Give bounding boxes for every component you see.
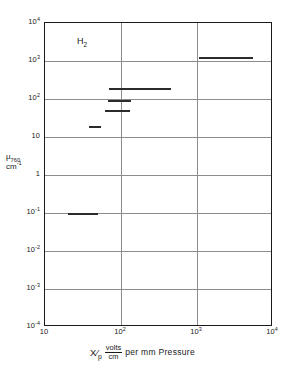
y-axis-tick-label: 103 bbox=[28, 56, 40, 64]
data-segment bbox=[199, 57, 254, 59]
x-axis-tick-label: 104 bbox=[266, 328, 278, 336]
x-axis-tick-label: 10 bbox=[40, 328, 49, 336]
tick-mantissa: 10 bbox=[26, 245, 35, 254]
y-axis-tick-label: 10-3 bbox=[26, 284, 40, 292]
gridline-horizontal bbox=[45, 99, 271, 100]
tick-exponent: -4 bbox=[35, 320, 40, 326]
y-axis-tick-label: 102 bbox=[28, 94, 40, 102]
tick-mantissa: 10 bbox=[190, 327, 199, 336]
y-axis-title-unit-exponent: -1 bbox=[17, 160, 22, 166]
tick-mantissa: 10 bbox=[266, 327, 275, 336]
tick-mantissa: 10 bbox=[28, 93, 37, 102]
tick-mantissa: 10 bbox=[26, 207, 35, 216]
tick-exponent: 4 bbox=[37, 16, 40, 22]
x-axis-title-ratio: X⁄p bbox=[90, 348, 102, 358]
tick-exponent: -3 bbox=[35, 282, 40, 288]
gridline-vertical bbox=[121, 23, 122, 325]
gridline-horizontal bbox=[45, 289, 271, 290]
x-axis-unit-denominator: cm bbox=[105, 353, 122, 361]
gridline-horizontal bbox=[45, 61, 271, 62]
plot-area: H2 bbox=[44, 22, 272, 326]
tick-mantissa: 10 bbox=[26, 283, 35, 292]
y-axis-tick-labels: 10410310210110-110-210-310-4 bbox=[0, 22, 40, 326]
tick-mantissa: 10 bbox=[26, 321, 35, 330]
tick-mantissa: 10 bbox=[40, 327, 49, 336]
tick-mantissa: 10 bbox=[114, 327, 123, 336]
y-axis-tick-label: 104 bbox=[28, 18, 40, 26]
y-axis-tick-label: 10-1 bbox=[26, 208, 40, 216]
gridline-horizontal bbox=[45, 137, 271, 138]
x-axis-tick-labels: 10102103104 bbox=[44, 328, 272, 342]
tick-mantissa: 10 bbox=[28, 17, 37, 26]
tick-exponent: -1 bbox=[35, 206, 40, 212]
y-axis-title: μ760 cm-1 bbox=[6, 152, 40, 172]
tick-exponent: 2 bbox=[123, 326, 126, 332]
y-axis-tick-label: 10-2 bbox=[26, 246, 40, 254]
x-axis-tick-label: 102 bbox=[114, 328, 126, 336]
tick-exponent: 4 bbox=[275, 326, 278, 332]
x-axis-tick-label: 103 bbox=[190, 328, 202, 336]
tick-mantissa: 10 bbox=[28, 55, 37, 64]
data-segment bbox=[108, 100, 131, 102]
tick-exponent: 2 bbox=[37, 92, 40, 98]
x-axis-title: X⁄pvoltscmper mm Pressure bbox=[0, 344, 285, 361]
tick-exponent: -2 bbox=[35, 244, 40, 250]
tick-exponent: 3 bbox=[37, 54, 40, 60]
y-axis-title-unit: cm bbox=[6, 162, 17, 171]
gas-annotation: H2 bbox=[77, 37, 87, 46]
tick-mantissa: 10 bbox=[31, 131, 40, 140]
gas-annotation-subscript: 2 bbox=[84, 41, 88, 48]
y-axis-tick-label: 10 bbox=[31, 132, 40, 140]
gridline-vertical bbox=[197, 23, 198, 325]
y-axis-tick-label: 10-4 bbox=[26, 322, 40, 330]
data-segment bbox=[68, 213, 98, 215]
data-segment bbox=[89, 126, 101, 128]
figure-canvas: 10410310210110-110-210-310-4 μ760 cm-1 H… bbox=[0, 0, 285, 371]
data-segment bbox=[109, 88, 170, 90]
gridline-horizontal bbox=[45, 251, 271, 252]
tick-exponent: 3 bbox=[199, 326, 202, 332]
gridline-horizontal bbox=[45, 175, 271, 176]
x-axis-title-denominator: p bbox=[98, 353, 102, 360]
data-segment bbox=[105, 110, 129, 112]
x-axis-title-suffix: per mm Pressure bbox=[125, 348, 195, 357]
x-axis-title-unit-fraction: voltscm bbox=[105, 344, 122, 361]
